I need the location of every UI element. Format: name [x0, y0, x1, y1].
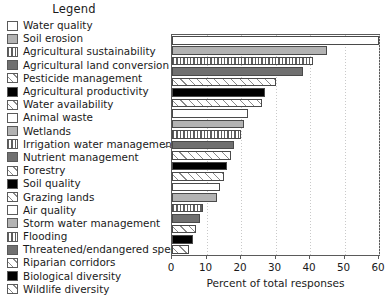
legend-item[interactable]: Nutrient management	[4, 151, 172, 164]
x-tick	[275, 256, 276, 259]
x-tick-label: 60	[371, 261, 384, 273]
legend-item[interactable]: Irrigation water management	[4, 138, 172, 151]
legend-swatch-icon	[7, 126, 18, 136]
legend-item[interactable]: Agricultural productivity	[4, 85, 172, 98]
legend-swatch-icon	[7, 73, 18, 83]
legend-swatch-icon	[7, 192, 18, 202]
x-tick-label: 30	[268, 261, 281, 273]
x-tick-label: 20	[233, 261, 246, 273]
bar-series	[172, 35, 379, 255]
legend-swatch-icon	[7, 245, 18, 255]
legend-item[interactable]: Water quality	[4, 19, 172, 32]
legend-item[interactable]: Animal waste	[4, 111, 172, 124]
legend-swatch-icon	[7, 47, 18, 57]
legend-item-label: Water quality	[23, 20, 93, 31]
bar	[172, 78, 276, 87]
legend-swatch-icon	[7, 139, 18, 149]
bar	[172, 183, 220, 192]
x-tick	[378, 256, 379, 259]
legend-item[interactable]: Soil erosion	[4, 32, 172, 45]
legend-item-label: Soil erosion	[23, 33, 83, 44]
legend-swatch-icon	[7, 152, 18, 162]
legend-swatch-icon	[7, 113, 18, 123]
gridline	[379, 35, 380, 255]
bar	[172, 193, 217, 202]
bar	[172, 235, 193, 244]
legend-item[interactable]: Agricultural sustainability	[4, 45, 172, 58]
bar	[172, 214, 200, 223]
legend-item[interactable]: Flooding	[4, 230, 172, 243]
legend-item[interactable]: Wildlife diversity	[4, 283, 172, 296]
x-tick-label: 0	[168, 261, 175, 273]
legend-item-label: Air quality	[23, 205, 76, 216]
legend-item-label: Forestry	[23, 165, 65, 176]
legend-item-list: Water qualitySoil erosionAgricultural su…	[4, 19, 172, 296]
chart-figure: Legend Water qualitySoil erosionAgricult…	[0, 0, 386, 298]
bar	[172, 204, 203, 213]
bar	[172, 225, 196, 234]
legend-title: Legend	[4, 2, 172, 16]
x-axis-title: Percent of total responses	[171, 277, 380, 289]
legend-item-label: Water availability	[23, 99, 114, 110]
bar	[172, 67, 303, 76]
plot-area	[171, 34, 380, 256]
legend-item-label: Irrigation water management	[23, 139, 176, 150]
bar	[172, 120, 244, 129]
legend-item[interactable]: Grazing lands	[4, 190, 172, 203]
legend-item[interactable]: Soil quality	[4, 177, 172, 190]
legend-item-label: Grazing lands	[23, 192, 94, 203]
legend-item-label: Wetlands	[23, 126, 71, 137]
x-tick	[206, 256, 207, 259]
legend: Legend Water qualitySoil erosionAgricult…	[4, 2, 172, 258]
legend-item-label: Agricultural land conversion	[23, 60, 169, 71]
bar	[172, 99, 262, 108]
x-tick-label: 10	[199, 261, 212, 273]
legend-swatch-icon	[7, 205, 18, 215]
legend-item-label: Threatened/endangered species	[23, 244, 191, 255]
x-axis-ticks	[171, 256, 380, 260]
legend-swatch-icon	[7, 166, 18, 176]
legend-swatch-icon	[7, 100, 18, 110]
bar	[172, 151, 231, 160]
legend-item-label: Animal waste	[23, 112, 93, 123]
legend-item[interactable]: Water availability	[4, 98, 172, 111]
legend-item-label: Pesticide management	[23, 73, 142, 84]
x-tick	[240, 256, 241, 259]
legend-swatch-icon	[7, 60, 18, 70]
legend-item-label: Nutrient management	[23, 152, 139, 163]
legend-swatch-icon	[7, 34, 18, 44]
bar	[172, 141, 234, 150]
legend-swatch-icon	[7, 87, 18, 97]
x-tick-label: 40	[302, 261, 315, 273]
legend-item[interactable]: Air quality	[4, 204, 172, 217]
legend-item[interactable]: Storm water management	[4, 217, 172, 230]
legend-swatch-icon	[7, 218, 18, 228]
legend-item-label: Wildlife diversity	[23, 284, 109, 295]
legend-swatch-icon	[7, 21, 18, 31]
legend-item-label: Agricultural productivity	[23, 86, 149, 97]
x-tick	[344, 256, 345, 259]
bar	[172, 46, 327, 55]
legend-item-label: Soil quality	[23, 178, 81, 189]
legend-item[interactable]: Wetlands	[4, 125, 172, 138]
legend-swatch-icon	[7, 284, 18, 294]
bar	[172, 36, 379, 45]
legend-item-label: Storm water management	[23, 218, 160, 229]
bar	[172, 130, 241, 139]
x-tick-label: 50	[337, 261, 350, 273]
legend-leader-line	[164, 146, 172, 147]
legend-item[interactable]: Pesticide management	[4, 72, 172, 85]
legend-item[interactable]: Forestry	[4, 164, 172, 177]
bar	[172, 88, 265, 97]
legend-item[interactable]: Agricultural land conversion	[4, 59, 172, 72]
legend-swatch-icon	[7, 232, 18, 242]
bar	[172, 245, 189, 254]
legend-item-label: Flooding	[23, 231, 67, 242]
legend-item[interactable]: Threatened/endangered species	[4, 243, 172, 256]
x-tick	[309, 256, 310, 259]
bar	[172, 162, 227, 171]
legend-item-label: Agricultural sustainability	[23, 46, 156, 57]
x-tick	[171, 256, 172, 259]
bar	[172, 109, 248, 118]
bar	[172, 57, 313, 66]
